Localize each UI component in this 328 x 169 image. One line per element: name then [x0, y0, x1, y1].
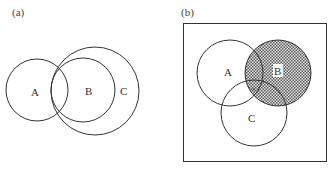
- circle-b: [51, 58, 115, 122]
- label-c: C: [120, 85, 127, 97]
- label-b: B: [85, 85, 92, 97]
- label-a: A: [31, 86, 39, 98]
- intersection-marker: ×: [251, 84, 256, 94]
- label-b: B: [274, 65, 281, 77]
- panel-a: (a) A B C: [6, 6, 139, 135]
- label-a: A: [224, 66, 232, 78]
- venn-diagrams: (a) A B C (b) A B C ×: [0, 0, 328, 169]
- panel-a-caption: (a): [12, 6, 25, 19]
- label-c: C: [248, 112, 255, 124]
- panel-b: (b) A B C ×: [181, 6, 327, 162]
- panel-b-caption: (b): [181, 6, 194, 19]
